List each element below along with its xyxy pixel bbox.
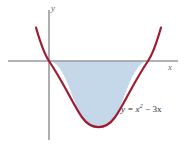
equation-tail: − 3x	[143, 104, 162, 114]
curve-equation-label: y = x2 − 3x	[121, 103, 161, 114]
math-figure: y x y = x2 − 3x	[0, 0, 188, 145]
equation-base: y = x	[121, 104, 140, 114]
x-axis-label: x	[168, 63, 172, 72]
shaded-region	[49, 61, 148, 127]
parabola-plot-canvas	[0, 0, 188, 145]
y-axis-label: y	[51, 4, 55, 13]
